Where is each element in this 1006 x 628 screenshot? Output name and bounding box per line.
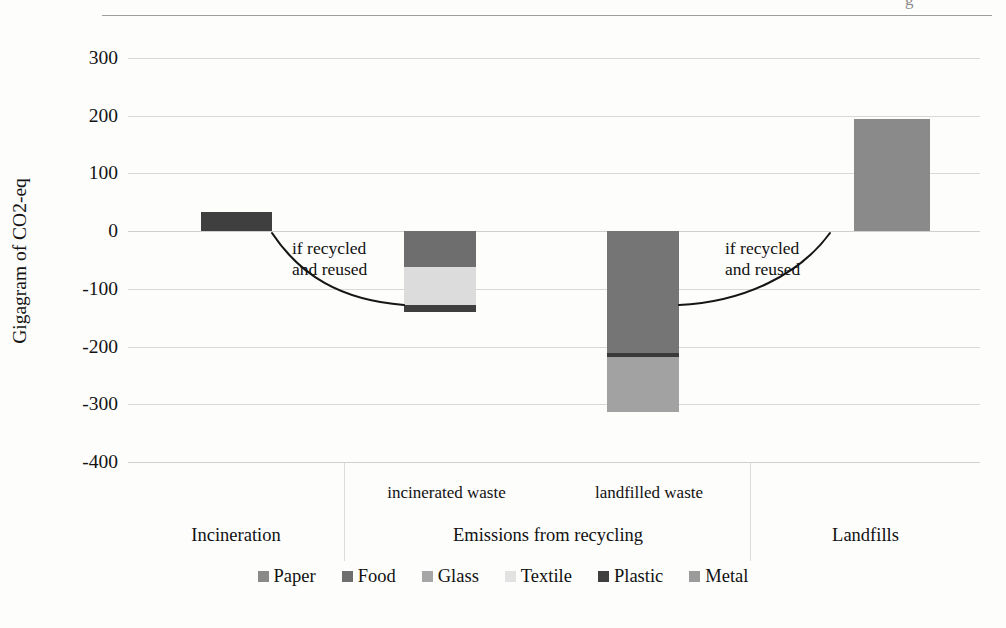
- chart-legend: Paper Food Glass Textile Plastic Metal: [0, 566, 1006, 587]
- bar-incinerated-waste[interactable]: [404, 231, 476, 312]
- x-cell-incinerated-waste: incinerated waste: [345, 463, 548, 561]
- plot-area: [128, 58, 980, 462]
- x-sub-label: incinerated waste: [345, 483, 548, 503]
- legend-swatch-icon: [505, 571, 516, 582]
- gridline-m200: [128, 347, 980, 348]
- x-cell-landfilled-waste: landfilled waste Emissions from recyclin…: [548, 463, 751, 561]
- legend-item-glass[interactable]: Glass: [422, 566, 479, 587]
- legend-swatch-icon: [689, 571, 700, 582]
- gridline-m100: [128, 289, 980, 290]
- gridline-200: [128, 116, 980, 117]
- annotation-recycled-right: if recycled and reused: [725, 238, 800, 281]
- annotation-line-1: if recycled: [292, 238, 367, 259]
- bar-incineration[interactable]: [201, 212, 272, 231]
- legend-label: Glass: [438, 566, 479, 587]
- figure-page: g Gigagram of CO2-eq 300 200 100 0 -100 …: [0, 0, 1006, 628]
- legend-label: Paper: [274, 566, 316, 587]
- bar-segment-paper: [854, 119, 930, 232]
- legend-label: Metal: [705, 566, 748, 587]
- legend-label: Food: [358, 566, 396, 587]
- x-cell-landfills: Landfills: [751, 463, 980, 561]
- y-tick-200: 200: [36, 106, 118, 126]
- legend-swatch-icon: [598, 571, 609, 582]
- legend-item-paper[interactable]: Paper: [258, 566, 316, 587]
- stacked-bar-chart: Gigagram of CO2-eq 300 200 100 0 -100 -2…: [0, 0, 1006, 628]
- legend-label: Plastic: [614, 566, 663, 587]
- y-tick-m200: -200: [36, 337, 118, 357]
- legend-swatch-icon: [342, 571, 353, 582]
- x-group-label: Incineration: [128, 525, 344, 546]
- gridline-m300: [128, 404, 980, 405]
- gridline-100: [128, 173, 980, 174]
- legend-item-metal[interactable]: Metal: [689, 566, 748, 587]
- bar-landfilled-waste[interactable]: [607, 231, 679, 412]
- legend-swatch-icon: [258, 571, 269, 582]
- annotation-line-1: if recycled: [725, 238, 800, 259]
- x-group-label: Emissions from recycling: [345, 525, 751, 546]
- annotation-line-2: and reused: [292, 259, 367, 280]
- bar-segment-food: [607, 231, 679, 353]
- x-group-label: Landfills: [751, 525, 980, 546]
- y-tick-m400: -400: [36, 452, 118, 472]
- legend-swatch-icon: [422, 571, 433, 582]
- legend-item-plastic[interactable]: Plastic: [598, 566, 663, 587]
- bar-segment-plastic: [201, 212, 272, 231]
- y-tick-m300: -300: [36, 394, 118, 414]
- legend-label: Textile: [521, 566, 572, 587]
- bar-segment-textile: [404, 267, 476, 305]
- y-tick-300: 300: [36, 48, 118, 68]
- y-tick-m100: -100: [36, 279, 118, 299]
- gridline-300: [128, 58, 980, 59]
- y-tick-100: 100: [36, 163, 118, 183]
- annotation-recycled-left: if recycled and reused: [292, 238, 367, 281]
- legend-item-textile[interactable]: Textile: [505, 566, 572, 587]
- x-cell-incineration: Incineration: [128, 463, 345, 561]
- bar-segment-plastic: [404, 305, 476, 312]
- annotation-line-2: and reused: [725, 259, 800, 280]
- bar-segment-glass: [607, 357, 679, 412]
- legend-item-food[interactable]: Food: [342, 566, 396, 587]
- y-tick-0: 0: [36, 221, 118, 241]
- bar-landfills[interactable]: [854, 119, 930, 232]
- bar-segment-food: [404, 231, 476, 267]
- gridline-zero: [128, 231, 980, 232]
- x-axis-table: Incineration incinerated waste landfille…: [128, 462, 980, 561]
- x-sub-label: landfilled waste: [548, 483, 750, 503]
